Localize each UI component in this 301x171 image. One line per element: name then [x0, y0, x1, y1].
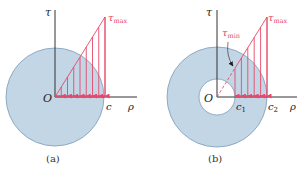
tau-min-label: τmin [222, 27, 240, 40]
rho-axis-label: ρ [127, 101, 134, 112]
caption-a: (a) [46, 153, 60, 164]
radius-c-label: c [106, 101, 112, 112]
panel-a-solid-shaft: τ O c ρ τmax (a) [6, 6, 137, 164]
caption-b: (b) [208, 153, 222, 164]
panel-b-hollow-shaft: τ O c1 c2 ρ τmax τmin (b) [167, 6, 297, 164]
tau-axis-label: τ [206, 6, 213, 19]
rho-axis-label: ρ [289, 101, 296, 112]
outer-radius-c2-label: c2 [268, 101, 278, 114]
tau-axis-label: τ [45, 6, 52, 19]
tau-max-label: τmax [268, 12, 288, 25]
origin-label: O [43, 92, 52, 105]
torsion-shear-stress-diagram: τ O c ρ τmax (a) τ O [0, 0, 301, 171]
tau-max-label: τmax [108, 12, 128, 25]
origin-label: O [204, 92, 213, 105]
